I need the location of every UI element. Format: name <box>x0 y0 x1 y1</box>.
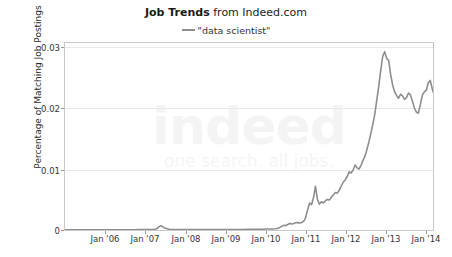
y-tick-label-0: 0 <box>16 226 60 236</box>
data-series-line <box>65 43 433 230</box>
chart-title-strong: Job Trends <box>145 6 210 19</box>
legend-item-label: "data scientist" <box>198 25 271 36</box>
x-tick-label-8: Jan '14 <box>412 234 441 244</box>
chart-title: Job Trends from Indeed.com <box>0 6 452 19</box>
y-tick-label-2: 0.02 <box>16 104 60 114</box>
x-tick-label-4: Jan '10 <box>252 234 281 244</box>
x-tick-label-7: Jan '13 <box>372 234 401 244</box>
x-tick-label-5: Jan '11 <box>292 234 321 244</box>
chart-container: Job Trends from Indeed.com "data scienti… <box>0 0 452 257</box>
plot-area: indeed one search. all jobs. <box>64 42 434 231</box>
x-tick-label-6: Jan '12 <box>332 234 361 244</box>
chart-legend: "data scientist" <box>0 24 452 37</box>
x-tick-label-0: Jan '06 <box>91 234 120 244</box>
y-tick-label-1: 0.01 <box>16 166 60 176</box>
chart-title-rest: from Indeed.com <box>210 6 307 19</box>
y-axis-label: Percentage of Matching Job Postings <box>33 0 43 182</box>
x-tick-label-2: Jan '08 <box>172 234 201 244</box>
x-tick-label-3: Jan '09 <box>212 234 241 244</box>
line-dash-icon <box>182 29 195 31</box>
x-tick-label-1: Jan '07 <box>131 234 160 244</box>
y-tick-label-3: 0.03 <box>16 43 60 53</box>
